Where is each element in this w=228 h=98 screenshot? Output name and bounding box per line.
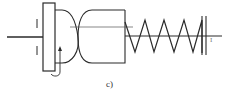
clutch-plate (43, 3, 55, 71)
friction-cam-left (55, 10, 78, 63)
figure-caption: c) (106, 80, 113, 89)
end-marker-label: I (210, 37, 212, 44)
mechanism-diagram (0, 0, 228, 98)
friction-cam-right (78, 10, 125, 63)
arrow-head-icon (58, 46, 62, 51)
